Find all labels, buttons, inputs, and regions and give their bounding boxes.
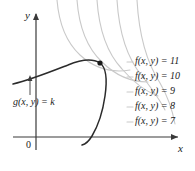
level-curve-label-9: f(x, y) = 9 [135, 86, 175, 96]
origin-label: 0 [26, 140, 31, 150]
level-curve-label-8: f(x, y) = 8 [135, 101, 175, 111]
level-curve-label-11: f(x, y) = 11 [135, 56, 179, 66]
constraint-curve-label: g(x, y) = k [13, 97, 55, 107]
y-axis-arrowhead [33, 13, 39, 20]
y-axis-label: y [25, 10, 30, 21]
level-curve-label-7: f(x, y) = 7 [135, 116, 175, 126]
x-axis-arrowhead [171, 134, 178, 140]
x-axis-label: x [178, 143, 183, 154]
level-label-leader-group [127, 62, 133, 122]
lagrange-multiplier-figure: y x 0 g(x, y) = k f(x, y) = 11 f(x, y) =… [0, 0, 195, 171]
tangency-point-marker [97, 60, 102, 65]
level-curve-label-10: f(x, y) = 10 [135, 71, 180, 81]
